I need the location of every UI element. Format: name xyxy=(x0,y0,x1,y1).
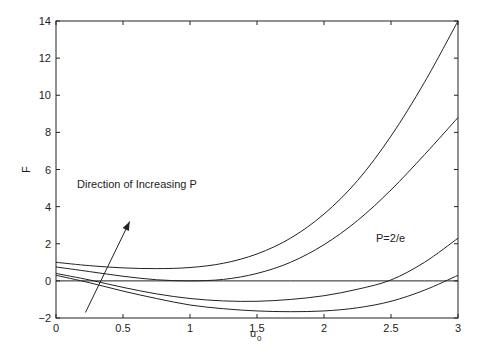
x-tick-label: 3 xyxy=(455,322,461,334)
y-tick-label: 4 xyxy=(45,201,51,213)
y-tick-label: 10 xyxy=(39,89,51,101)
y-tick-label: −2 xyxy=(38,312,51,324)
y-axis: −202468101214 xyxy=(38,15,458,324)
chart: 00.511.522.53 −202468101214 u 0 F Direct… xyxy=(0,0,482,361)
x-tick-label: 2.5 xyxy=(383,322,398,334)
annotation-p-2-over-e: P=2/e xyxy=(376,232,405,244)
y-tick-label: 6 xyxy=(45,164,51,176)
x-tick-label: 2 xyxy=(321,322,327,334)
y-axis-label: F xyxy=(20,166,32,173)
x-tick-label: 0.5 xyxy=(115,322,130,334)
y-tick-label: 8 xyxy=(45,126,51,138)
x-tick-label: 0 xyxy=(53,322,59,334)
direction-arrow-icon xyxy=(85,221,129,312)
x-axis-label-subscript: 0 xyxy=(257,334,262,343)
annotation-direction: Direction of Increasing P xyxy=(77,178,197,190)
curve-3 xyxy=(56,238,458,301)
y-tick-label: 2 xyxy=(45,238,51,250)
plot-curves xyxy=(56,21,458,312)
x-tick-label: 1 xyxy=(187,322,193,334)
y-tick-label: 0 xyxy=(45,275,51,287)
y-tick-label: 12 xyxy=(39,52,51,64)
y-tick-label: 14 xyxy=(39,15,51,27)
x-axis-label: u xyxy=(250,327,256,339)
curve-2 xyxy=(56,118,458,281)
